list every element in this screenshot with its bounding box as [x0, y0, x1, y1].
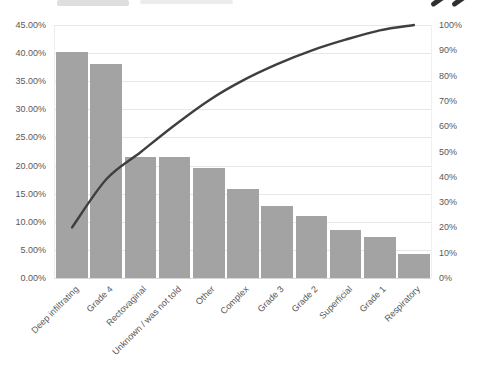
category-label: Grade 3	[255, 284, 286, 315]
category-label: Grade 4	[84, 284, 115, 315]
closing-quote-mark-icon	[429, 0, 475, 13]
left-axis-tick-label: 30.00%	[0, 104, 46, 114]
left-axis-tick-label: 35.00%	[0, 76, 46, 86]
left-axis-tick-label: 0.00%	[0, 273, 46, 283]
category-label: Superficial	[317, 284, 354, 321]
right-axis-tick-label: 70%	[439, 96, 457, 106]
left-axis-tick-label: 40.00%	[0, 48, 46, 58]
right-axis-tick-label: 80%	[439, 71, 457, 81]
category-label: Unknown / was not told	[110, 284, 184, 358]
left-axis-tick-label: 10.00%	[0, 217, 46, 227]
cropped-title-remnant-2	[140, 0, 233, 4]
left-axis-tick-label: 15.00%	[0, 189, 46, 199]
quote-stroke	[451, 0, 468, 7]
pareto-chart-screenshot: 45.00%40.00%35.00%30.00%25.00%20.00%15.0…	[0, 0, 486, 387]
right-axis-tick-label: 60%	[439, 121, 457, 131]
left-axis-tick-label: 20.00%	[0, 161, 46, 171]
left-axis-tick-label: 45.00%	[0, 20, 46, 30]
category-label: Grade 2	[289, 284, 320, 315]
cumulative-line	[72, 25, 414, 227]
x-axis-line	[55, 278, 431, 279]
category-label: Respiratory	[382, 284, 422, 324]
category-label: Other	[194, 284, 218, 308]
category-label: Deep infiltrating	[29, 284, 81, 336]
right-axis-tick-label: 20%	[439, 222, 457, 232]
right-axis-tick-label: 40%	[439, 172, 457, 182]
category-label: Grade 1	[358, 284, 389, 315]
left-axis-tick-label: 25.00%	[0, 132, 46, 142]
cumulative-line-series	[55, 25, 431, 278]
right-axis-tick-label: 100%	[439, 20, 462, 30]
right-axis-tick-label: 10%	[439, 248, 457, 258]
right-axis-tick-label: 50%	[439, 147, 457, 157]
category-label: Complex	[219, 284, 252, 317]
right-axis-tick-label: 0%	[439, 273, 452, 283]
right-axis-tick-label: 90%	[439, 45, 457, 55]
cropped-title-remnant	[57, 0, 129, 6]
quote-stroke	[430, 0, 447, 7]
right-axis-tick-label: 30%	[439, 197, 457, 207]
plot-area	[54, 25, 432, 278]
left-axis-tick-label: 5.00%	[0, 245, 46, 255]
